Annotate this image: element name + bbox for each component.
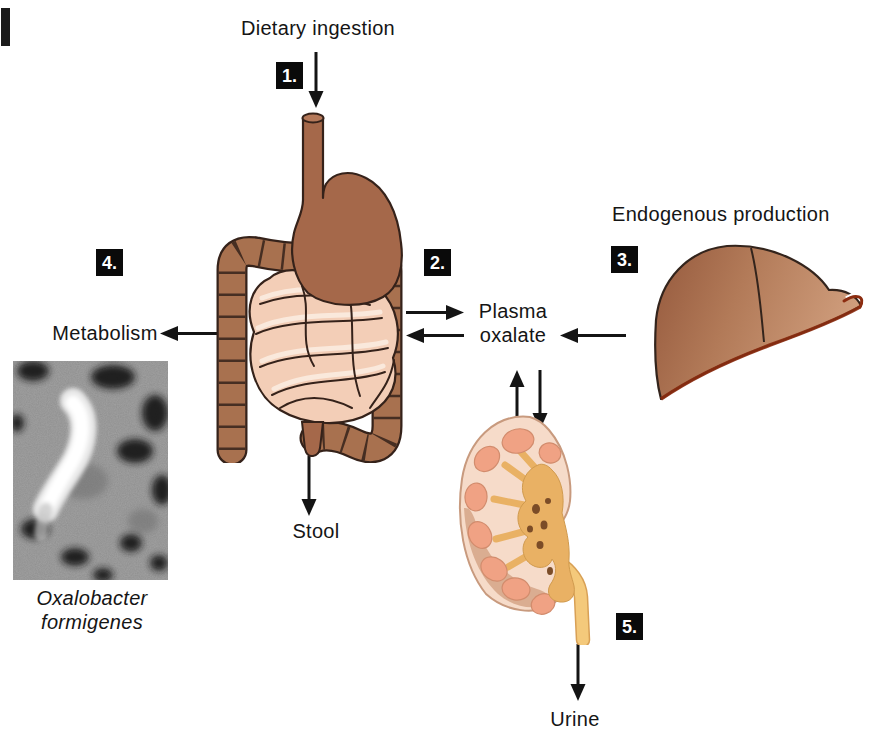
scan-artifact-mark (1, 8, 10, 46)
organism-caption-line1: Oxalobacter (36, 586, 147, 610)
step-4-badge: 4. (96, 249, 123, 276)
oxalate-pathway-figure: Dietary ingestion Endogenous production … (0, 0, 883, 748)
step-2-badge: 2. (424, 249, 451, 276)
organism-caption-line2: formigenes (36, 610, 147, 634)
arrow-gi-to-metabolism-icon (160, 325, 217, 342)
gi-tract-illustration (210, 108, 410, 463)
arrow-kidney-to-urine-icon (567, 644, 589, 701)
liver-illustration (630, 240, 880, 412)
oxalobacter-micrograph (13, 361, 168, 580)
step-1-badge: 1. (276, 62, 303, 89)
dietary-ingestion-label: Dietary ingestion (241, 16, 395, 40)
plasma-oxalate-line1: Plasma (479, 299, 548, 323)
step-5-badge: 5. (616, 613, 643, 640)
organism-caption: Oxalobacter formigenes (36, 586, 147, 634)
arrow-gi-to-stool-icon (298, 456, 320, 516)
kidney-illustration (450, 413, 600, 645)
urine-label: Urine (550, 707, 599, 731)
arrow-gi-to-plasma-icon (406, 304, 464, 321)
endogenous-production-label: Endogenous production (612, 202, 830, 226)
arrow-liver-to-plasma-icon (560, 327, 626, 344)
plasma-oxalate-line2: oxalate (479, 323, 548, 347)
stool-label: Stool (292, 519, 339, 543)
arrow-plasma-to-gi-icon (406, 327, 464, 344)
metabolism-label: Metabolism (52, 321, 157, 345)
plasma-oxalate-label: Plasma oxalate (479, 299, 548, 347)
arrow-dietary-to-gi-icon (305, 52, 327, 108)
